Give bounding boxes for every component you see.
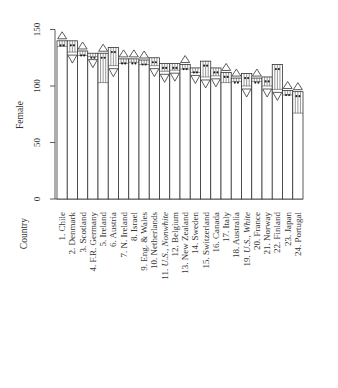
dot-marker	[234, 81, 236, 83]
dot-marker	[193, 71, 195, 73]
dot-marker	[298, 95, 300, 97]
bar	[170, 63, 180, 199]
bar-group	[139, 51, 149, 199]
country-label: 4. F.R. Germany	[88, 212, 98, 272]
dot-marker	[80, 54, 82, 56]
bar-group	[119, 50, 129, 199]
country-label: 13. New Zealand	[180, 212, 190, 274]
dot-marker	[278, 68, 280, 70]
country-label: 8. Israel	[129, 212, 139, 241]
category-labels: 1. Chile 2. Denmark 3. Scotland 4. F.R. …	[57, 212, 303, 280]
dot-marker	[264, 80, 266, 82]
dot-marker	[145, 63, 147, 65]
country-label: 9. Eng. & Wales	[139, 212, 149, 271]
bar	[119, 59, 129, 199]
bar	[57, 41, 67, 199]
bar-group	[180, 56, 190, 199]
country-label: 5. Ireland	[98, 212, 108, 247]
bar	[252, 78, 262, 199]
triangle-up-icon	[232, 69, 241, 76]
x-axis-title: Country	[19, 218, 29, 249]
dot-marker	[124, 62, 126, 64]
bar-group	[57, 32, 67, 199]
bar	[221, 72, 231, 199]
bar-group	[78, 42, 88, 199]
bar-group	[88, 53, 98, 199]
dot-marker	[247, 77, 249, 79]
country-label: 22. Finland	[272, 212, 282, 254]
dot-marker	[155, 61, 157, 63]
dot-marker	[141, 63, 143, 65]
bar-group	[272, 65, 282, 199]
bar	[88, 53, 98, 199]
bar-group	[293, 83, 303, 199]
bar-group	[190, 68, 200, 199]
dot-marker	[59, 44, 61, 46]
country-label: 2. Denmark	[67, 212, 77, 255]
dot-marker	[131, 62, 133, 64]
country-label: 6. Austria	[108, 212, 118, 247]
bar-group	[170, 63, 180, 199]
triangle-up-icon	[283, 82, 292, 89]
dot-marker	[93, 57, 95, 59]
country-label: 18. Australia	[231, 212, 241, 258]
dot-marker	[104, 57, 106, 59]
country-label: 17. Italy	[221, 212, 231, 242]
dot-marker	[172, 67, 174, 69]
country-label: 24. Portugal	[293, 212, 303, 256]
bar-group	[98, 44, 108, 199]
bar	[180, 65, 190, 199]
y-tick-label: 150	[32, 22, 42, 36]
dot-marker	[227, 76, 229, 78]
dot-marker	[203, 65, 205, 67]
bar	[78, 51, 88, 199]
bar	[129, 59, 139, 199]
triangle-up-icon	[119, 50, 128, 57]
dot-marker	[63, 44, 65, 46]
dot-marker	[285, 94, 287, 96]
dot-marker	[73, 44, 75, 46]
dot-marker	[196, 71, 198, 73]
bar-group	[231, 69, 241, 199]
dot-marker	[165, 67, 167, 69]
bar	[160, 63, 170, 199]
chart: 050100150FemaleCountry 1. Chile 2. Denma…	[0, 0, 338, 388]
bar-group	[221, 63, 231, 199]
bar-group	[262, 77, 272, 199]
dot-marker	[182, 68, 184, 70]
dot-marker	[206, 65, 208, 67]
dot-marker	[244, 77, 246, 79]
dot-marker	[175, 67, 177, 69]
triangle-up-icon	[58, 32, 67, 39]
bar	[283, 91, 293, 199]
bar-group	[252, 69, 262, 199]
dot-marker	[223, 76, 225, 78]
y-tick-label: 0	[32, 196, 42, 201]
country-label: 23. Japan	[283, 212, 293, 246]
triangle-up-icon	[252, 69, 261, 76]
dot-marker	[162, 67, 164, 69]
dot-marker	[257, 81, 259, 83]
bar-group	[283, 82, 293, 199]
bar	[67, 41, 77, 199]
bar-group	[242, 74, 252, 199]
country-label: 7. N. Ireland	[119, 212, 129, 258]
y-axis-title: Female	[15, 101, 25, 129]
dot-marker	[114, 51, 116, 53]
country-label: 21. Norway	[262, 212, 272, 255]
bars	[57, 32, 303, 199]
dot-marker	[237, 81, 239, 83]
dot-marker	[100, 57, 102, 59]
country-label: 3. Scotland	[78, 212, 88, 253]
dot-marker	[268, 80, 270, 82]
dot-marker	[275, 68, 277, 70]
triangle-up-icon	[129, 50, 138, 57]
bar-group	[129, 50, 139, 199]
country-label: 19. U.S., White	[242, 212, 252, 267]
bar	[231, 78, 241, 199]
dot-marker	[134, 62, 136, 64]
bar-group	[201, 61, 211, 199]
dot-marker	[186, 68, 188, 70]
triangle-up-icon	[222, 63, 231, 70]
triangle-up-icon	[140, 51, 149, 58]
